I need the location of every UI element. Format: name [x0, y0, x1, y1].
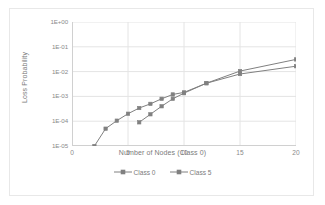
series-line — [94, 59, 296, 146]
data-point-marker — [126, 112, 129, 115]
y-tick-label: 1E-05 — [34, 142, 68, 149]
data-point-marker — [294, 58, 296, 61]
legend-entry-2[interactable]: Class 5 — [170, 168, 212, 176]
series-2 — [138, 65, 297, 125]
y-axis-tick-labels: 1E+001E-011E-021E-031E-041E-05 — [32, 22, 68, 146]
y-tick-label: 1E-02 — [34, 68, 68, 75]
legend-entry-1[interactable]: Class 0 — [114, 168, 156, 176]
data-point-marker — [138, 121, 141, 124]
chart-container: Loss Probability 1E+001E-011E-021E-031E-… — [9, 8, 314, 196]
legend-label: Class 0 — [134, 169, 156, 176]
series-line — [139, 66, 296, 122]
data-point-marker — [294, 65, 296, 68]
data-point-marker — [182, 91, 185, 94]
x-axis-title: Number of Nodes (Class 0) — [10, 149, 315, 156]
data-point-marker — [171, 93, 174, 96]
plot-area — [72, 22, 296, 146]
chart-legend: Class 0Class 5 — [10, 168, 315, 176]
y-axis-title: Loss Probability — [21, 33, 28, 123]
data-point-marker — [115, 119, 118, 122]
data-point-marker — [138, 106, 141, 109]
data-point-marker — [160, 105, 163, 108]
y-tick-label: 1E-01 — [34, 43, 68, 50]
data-point-marker — [238, 72, 241, 75]
data-point-marker — [160, 97, 163, 100]
series-layer — [93, 58, 296, 146]
data-point-marker — [149, 102, 152, 105]
y-tick-label: 1E+00 — [34, 18, 68, 25]
data-point-marker — [93, 144, 96, 146]
legend-label: Class 5 — [190, 169, 212, 176]
y-tick-label: 1E-03 — [34, 92, 68, 99]
legend-marker-icon — [170, 168, 188, 176]
plot-svg — [72, 22, 296, 146]
data-point-marker — [149, 113, 152, 116]
data-point-marker — [171, 97, 174, 100]
y-tick-label: 1E-04 — [34, 117, 68, 124]
data-point-marker — [205, 82, 208, 85]
legend-marker-icon — [114, 168, 132, 176]
data-point-marker — [104, 127, 107, 130]
